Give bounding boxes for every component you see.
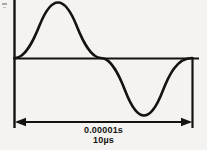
- period-label-microseconds: 10µs: [0, 135, 207, 145]
- period-label-seconds: 0.00001s: [0, 125, 207, 135]
- sine-period-figure: 0.00001s 10µs: [0, 0, 207, 150]
